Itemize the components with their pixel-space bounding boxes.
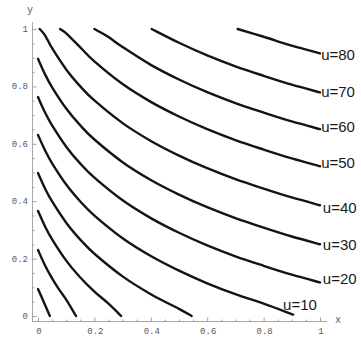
y-tick-label: 1	[23, 25, 28, 35]
y-axis: 00.20.40.60.81 y	[12, 5, 37, 322]
x-tick-label: 0.6	[200, 327, 216, 337]
contour-chart: 00.20.40.60.81 y 00.20.40.60.81 x u=80u=…	[0, 0, 361, 348]
level-curve	[238, 29, 320, 53]
level-curve	[60, 29, 320, 166]
level-curve	[38, 289, 50, 316]
level-curve	[38, 250, 76, 316]
curve-label: u=80	[321, 46, 355, 63]
curve-label: u=50	[321, 154, 355, 171]
x-axis: 00.20.40.60.81 x	[32, 315, 341, 337]
curve-label: u=60	[321, 118, 355, 135]
y-tick-label: 0.8	[12, 82, 28, 92]
y-axis-label: y	[27, 5, 33, 16]
x-axis-label: x	[335, 315, 341, 326]
x-tick-label: 1	[318, 327, 323, 337]
curve-label: u=30	[323, 236, 357, 253]
level-curves	[38, 29, 320, 316]
curve-label: u=40	[323, 199, 357, 216]
y-tick-label: 0.2	[12, 255, 28, 265]
x-tick-label: 0.8	[256, 327, 272, 337]
curve-label: u=10	[283, 296, 317, 313]
level-curve	[152, 29, 320, 92]
x-tick-label: 0.4	[144, 327, 160, 337]
y-tick-label: 0	[23, 312, 28, 322]
y-tick-label: 0.6	[12, 140, 28, 150]
x-tick-label: 0	[36, 327, 41, 337]
x-axis-ticks: 00.20.40.60.81	[36, 318, 323, 338]
y-tick-label: 0.4	[12, 197, 28, 207]
x-tick-label: 0.2	[87, 327, 103, 337]
curve-label: u=20	[323, 270, 357, 287]
curve-label: u=70	[321, 83, 355, 100]
